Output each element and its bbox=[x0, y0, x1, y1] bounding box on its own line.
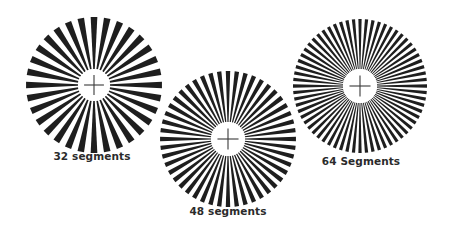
siemens-star-64-segments bbox=[291, 17, 429, 155]
star-spokes-icon bbox=[24, 15, 164, 155]
caption-32-segments: 32 segments bbox=[53, 150, 130, 162]
star-spokes-icon bbox=[158, 69, 298, 209]
siemens-star-figure: 32 segments 48 segments 64 Segments bbox=[0, 0, 449, 234]
star-spokes-icon bbox=[291, 17, 429, 155]
siemens-star-32-segments bbox=[24, 15, 164, 155]
caption-64-segments: 64 Segments bbox=[322, 155, 400, 167]
caption-48-segments: 48 segments bbox=[189, 205, 266, 217]
siemens-star-48-segments bbox=[158, 69, 298, 209]
